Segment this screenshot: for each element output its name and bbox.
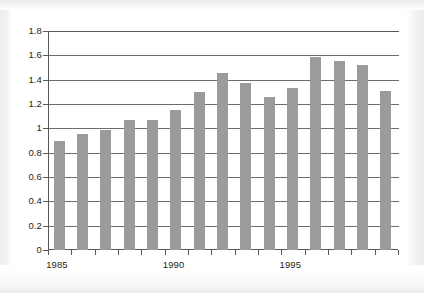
x-axis-tick-label: 1995	[280, 259, 302, 270]
x-axis-tick	[188, 250, 189, 255]
chart-screenshot: 00.20.40.60.811.21.41.61.8 198519901995	[0, 0, 424, 293]
bar	[194, 92, 205, 250]
x-axis-tick	[328, 250, 329, 255]
bar	[380, 91, 391, 250]
x-axis-tick	[71, 250, 72, 255]
bar	[287, 88, 298, 250]
y-axis-tick-label: 0.4	[0, 196, 42, 206]
bar	[264, 97, 275, 250]
x-axis-tick	[211, 250, 212, 255]
x-axis-tick	[141, 250, 142, 255]
x-axis-tick-label: 1990	[163, 259, 185, 270]
bar	[240, 83, 251, 250]
bar	[334, 61, 345, 250]
x-axis-tick	[281, 250, 282, 255]
bar	[147, 120, 158, 250]
y-axis-tick-label: 1.6	[0, 50, 42, 60]
x-axis-tick	[95, 250, 96, 255]
y-axis-tick-label: 0.2	[0, 221, 42, 231]
bar	[77, 134, 88, 250]
x-axis-tick-label: 1985	[46, 259, 68, 270]
x-axis-tick	[258, 250, 259, 255]
plot-area	[48, 31, 398, 250]
bar	[54, 141, 65, 251]
bar	[100, 130, 111, 250]
x-axis-tick	[118, 250, 119, 255]
bar-series	[49, 31, 399, 250]
x-axis-tick	[351, 250, 352, 255]
y-axis-tick-label: 0.6	[0, 172, 42, 182]
y-axis-tick-label: 1.4	[0, 75, 42, 85]
bar	[357, 65, 368, 250]
x-axis-tick	[305, 250, 306, 255]
x-axis-tick	[398, 250, 399, 255]
x-axis-tick	[165, 250, 166, 255]
bar	[310, 57, 321, 250]
x-axis-tick	[48, 250, 49, 255]
y-axis-tick-label: 1	[0, 123, 42, 133]
y-axis-tick-label: 1.8	[0, 26, 42, 36]
bar	[170, 110, 181, 250]
bar	[124, 120, 135, 250]
y-axis-tick-label: 0	[0, 245, 42, 255]
x-axis-tick	[375, 250, 376, 255]
bar	[217, 73, 228, 250]
y-axis-tick-label: 0.8	[0, 148, 42, 158]
y-axis-tick-label: 1.2	[0, 99, 42, 109]
x-axis-tick	[235, 250, 236, 255]
bar-chart: 00.20.40.60.811.21.41.61.8 198519901995	[0, 0, 424, 293]
